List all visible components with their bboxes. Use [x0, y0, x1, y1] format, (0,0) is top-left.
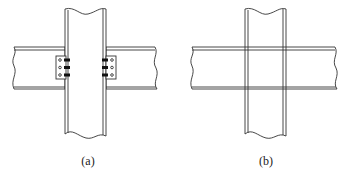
bolt-icon [102, 66, 108, 69]
figure-b-label: (b) [259, 154, 273, 169]
right-shear-plate [102, 56, 116, 79]
bolt-hole [111, 59, 114, 62]
bolt-hole [111, 66, 114, 69]
bolt-hole [111, 74, 114, 77]
bolt-icon [64, 74, 70, 77]
column-a [65, 8, 106, 138]
bolt-hole [59, 66, 62, 69]
figure-a-label: (a) [81, 154, 94, 169]
figure-a [13, 8, 157, 138]
bolt-hole [59, 74, 62, 77]
bolt-hole [59, 59, 62, 62]
bolt-icon [102, 74, 108, 77]
left-shear-plate [56, 56, 70, 79]
continuous-beam-b [191, 47, 337, 89]
bolt-icon [102, 59, 108, 62]
bolt-icon [64, 59, 70, 62]
bolt-icon [64, 66, 70, 69]
diagram-canvas [0, 0, 349, 176]
figure-b [191, 8, 337, 138]
